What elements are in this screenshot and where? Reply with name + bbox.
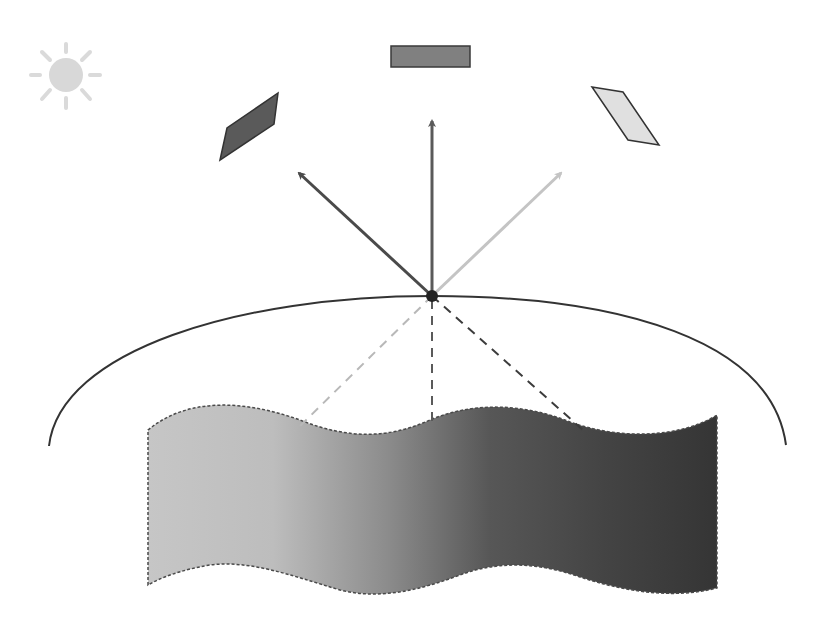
arrow-left xyxy=(299,173,432,296)
dashed-line-left xyxy=(295,296,432,431)
sun-icon xyxy=(31,44,100,108)
surface-strip xyxy=(148,405,717,594)
diagram-svg xyxy=(0,0,828,626)
right-patch xyxy=(592,87,659,145)
projection-lines xyxy=(295,296,583,431)
top-patch xyxy=(391,46,470,67)
illumination-diagram xyxy=(0,0,828,626)
surface-point xyxy=(426,290,438,302)
arrow-right xyxy=(432,173,561,296)
reflection-arrows xyxy=(299,121,561,296)
left-patch xyxy=(220,93,278,160)
